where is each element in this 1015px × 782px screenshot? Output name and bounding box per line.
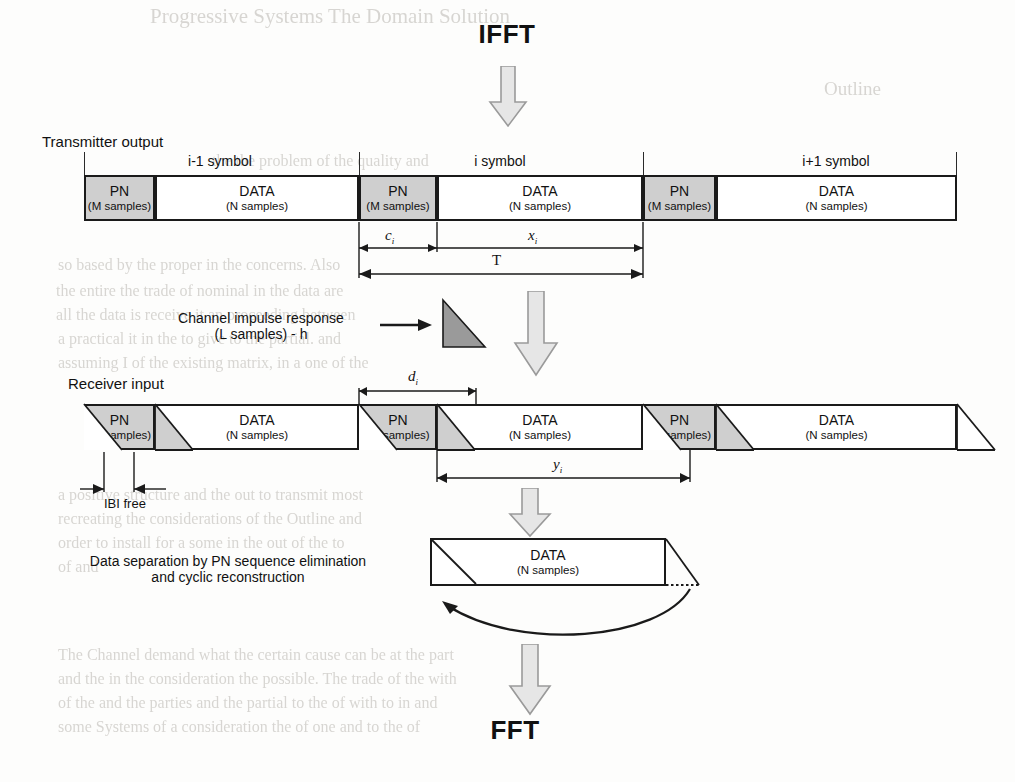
block-subtitle: (M samples) — [645, 199, 714, 212]
bleedthrough-line: order to install for a some in the out o… — [58, 534, 345, 552]
block-caption: PN(M samples) — [86, 184, 153, 213]
block-subtitle: (N samples) — [718, 428, 955, 441]
channel-arrow-and-triangle — [380, 295, 500, 355]
ifft-label: IFFT — [432, 20, 582, 50]
bleedthrough-line: assuming I of the existing matrix, in a … — [58, 354, 369, 372]
pn-block: PN(M samples) — [84, 404, 155, 450]
block-caption: PN(M samples) — [361, 413, 435, 442]
block-caption: PN(M samples) — [86, 413, 153, 442]
block-title: PN — [361, 184, 435, 200]
block-subtitle: (M samples) — [361, 199, 435, 212]
measure-label-xi: xi — [528, 227, 537, 246]
symbol-divider-0 — [84, 152, 85, 176]
block-subtitle: (M samples) — [645, 428, 714, 441]
symbol-divider-3 — [956, 152, 957, 176]
channel-down-arrow — [513, 291, 559, 377]
pn-block: PN(M samples) — [84, 175, 155, 221]
block-title: DATA — [157, 184, 357, 200]
data-separation-label: Data separation by PN sequence eliminati… — [48, 553, 408, 585]
symbol-label-i-plus-1: i+1 symbol — [781, 153, 891, 169]
block-caption: DATA(N samples) — [157, 413, 357, 442]
separation-down-arrow — [508, 488, 552, 538]
pn-block: PN(M samples) — [643, 175, 716, 221]
block-title: DATA — [718, 413, 955, 429]
data-block: DATA(N samples) — [155, 404, 359, 450]
bleedthrough-line: so based by the proper in the concerns. … — [58, 256, 340, 274]
data-block: DATA(N samples) — [716, 404, 957, 450]
transmitter-output-label: Transmitter output — [42, 133, 163, 150]
symbol-divider-2 — [643, 152, 644, 176]
bleedthrough-line: Outline — [824, 78, 881, 100]
ibi-free-label: IBI free — [104, 497, 146, 512]
data-block: DATA(N samples) — [437, 175, 643, 221]
bleedthrough-line: the entire the trade of nominal in the d… — [56, 282, 343, 300]
final-data-caption: DATA (N samples) — [432, 548, 664, 577]
block-caption: PN(M samples) — [645, 184, 714, 213]
block-title: DATA — [439, 184, 641, 200]
block-caption: DATA(N samples) — [718, 413, 955, 442]
pn-block: PN(M samples) — [359, 404, 437, 450]
block-caption: DATA(N samples) — [439, 413, 641, 442]
block-title: PN — [645, 413, 714, 429]
block-title: PN — [361, 413, 435, 429]
block-subtitle: (N samples) — [439, 428, 641, 441]
pn-block: PN(M samples) — [643, 404, 716, 450]
bleedthrough-line: of the and the parties and the partial t… — [58, 694, 437, 712]
data-block: DATA(N samples) — [155, 175, 359, 221]
fft-down-arrow — [508, 644, 552, 716]
fft-label: FFT — [455, 716, 575, 746]
data-block: DATA(N samples) — [437, 404, 643, 450]
block-title: DATA — [157, 413, 357, 429]
channel-impulse-response-label: Channel impulse response (L samples) - h — [156, 310, 366, 342]
block-subtitle: (N samples) — [157, 428, 357, 441]
measure-label-T: T — [492, 252, 501, 269]
bleedthrough-line: The Channel demand what the certain caus… — [58, 646, 454, 664]
block-subtitle: (N samples) — [157, 199, 357, 212]
block-subtitle: (M samples) — [86, 199, 153, 212]
block-caption: DATA(N samples) — [157, 184, 357, 213]
bleedthrough-line: and the in the consideration the possibl… — [58, 670, 457, 688]
data-block: DATA(N samples) — [716, 175, 957, 221]
final-data-block: DATA (N samples) — [430, 538, 666, 586]
block-subtitle: (M samples) — [86, 428, 153, 441]
block-subtitle: (N samples) — [439, 199, 641, 212]
pn-block: PN(M samples) — [359, 175, 437, 221]
block-title: PN — [86, 184, 153, 200]
bleedthrough-line: recreating the considerations of the Out… — [58, 510, 362, 528]
block-title: PN — [86, 413, 153, 429]
receiver-input-label: Receiver input — [68, 375, 164, 392]
block-subtitle: (M samples) — [361, 428, 435, 441]
block-caption: PN(M samples) — [645, 413, 714, 442]
symbol-label-i-minus-1: i-1 symbol — [165, 153, 275, 169]
block-subtitle: (N samples) — [718, 199, 955, 212]
block-title: PN — [645, 184, 714, 200]
block-caption: DATA(N samples) — [718, 184, 955, 213]
block-caption: DATA(N samples) — [439, 184, 641, 213]
ifft-down-arrow — [488, 66, 528, 128]
measure-label-di: di — [408, 368, 418, 387]
symbol-label-i: i symbol — [445, 153, 555, 169]
symbol-divider-1 — [359, 152, 360, 176]
bleedthrough-line: some Systems of a consideration the of o… — [58, 718, 420, 736]
block-title: DATA — [439, 413, 641, 429]
figure-canvas: Progressive Systems The Domain SolutionO… — [0, 0, 1015, 782]
block-caption: PN(M samples) — [361, 184, 435, 213]
block-title: DATA — [718, 184, 955, 200]
measure-label-ci: ci — [385, 227, 394, 246]
measure-label-yi: yi — [553, 456, 562, 475]
